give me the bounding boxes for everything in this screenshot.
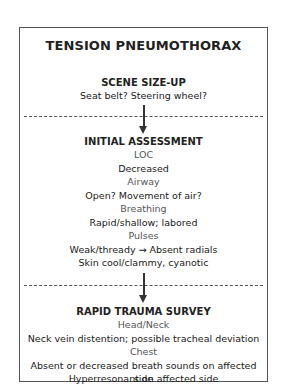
pulses-value: Weak/thready → Absent radials (20, 243, 267, 256)
diagram-title: TENSION PNEUMOTHORAX (20, 38, 267, 53)
arrow-shaft-2 (143, 273, 145, 297)
loc-label: LOC (20, 148, 267, 161)
breathing-value: Rapid/shallow; labored (20, 216, 267, 229)
section-heading-scene-size-up: SCENE SIZE-UP (20, 77, 267, 88)
breathing-label: Breathing (20, 202, 267, 215)
arrow-down-icon (139, 295, 147, 303)
scene-size-up-line: Seat belt? Steering wheel? (20, 89, 267, 102)
skin-value: Skin cool/clammy, cyanotic (20, 256, 267, 269)
flowchart-box: TENSION PNEUMOTHORAX SCENE SIZE-UP Seat … (19, 27, 268, 382)
head-neck-label: Head/Neck (20, 318, 267, 331)
loc-value: Decreased (20, 162, 267, 175)
arrow-down-icon (139, 126, 147, 134)
section-heading-rapid-trauma-survey: RAPID TRAUMA SURVEY (20, 306, 267, 317)
section-heading-initial-assessment: INITIAL ASSESSMENT (20, 136, 267, 147)
chest-value-2: Hyperresonant on affected side (20, 372, 267, 385)
chest-label: Chest (20, 345, 267, 358)
pulses-label: Pulses (20, 229, 267, 242)
airway-label: Airway (20, 175, 267, 188)
head-neck-value: Neck vein distention; possible tracheal … (20, 332, 267, 345)
airway-value: Open? Movement of air? (20, 189, 267, 202)
arrow-shaft-1 (143, 105, 145, 128)
